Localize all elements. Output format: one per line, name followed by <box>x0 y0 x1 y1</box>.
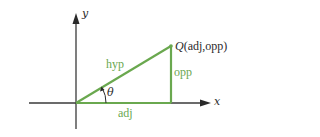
opposite-label: opp <box>174 65 192 80</box>
point-q-dot <box>169 44 173 48</box>
point-q-coords: (adj,opp) <box>184 39 228 53</box>
x-axis-arrow-icon <box>200 100 211 107</box>
angle-label: θ <box>107 86 114 99</box>
point-q-name: Q <box>175 39 184 53</box>
point-q-label: Q(adj,opp) <box>175 39 227 54</box>
y-axis-label: y <box>82 7 88 20</box>
hypotenuse-side <box>76 46 171 103</box>
adjacent-label: adj <box>118 106 133 121</box>
hypotenuse-label: hyp <box>106 57 124 72</box>
x-axis-label: x <box>214 95 220 108</box>
angle-arc <box>103 89 107 104</box>
y-axis-arrow-icon <box>73 13 80 24</box>
